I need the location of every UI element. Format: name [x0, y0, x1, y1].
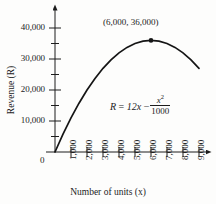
equation-label: R = 12x −x21000 — [110, 94, 171, 117]
equation-numerator-exponent: 2 — [161, 93, 164, 100]
equation-numerator: x2 — [150, 94, 170, 105]
xtick-label-5000: 5,000 — [132, 140, 142, 160]
xtick-label-1000: 1,000 — [68, 140, 78, 160]
xtick-label-7000: 7,000 — [164, 140, 174, 160]
xtick-label-4000: 4,000 — [116, 140, 126, 160]
equation-equals: = — [119, 101, 125, 112]
x-axis-title: Number of units (x) — [0, 187, 216, 197]
origin-label: 0 — [40, 155, 45, 165]
xtick-label-3000: 3,000 — [100, 140, 110, 160]
equation-fraction: x21000 — [150, 94, 170, 117]
equation-term1: 12x — [127, 101, 141, 112]
equation-lhs: R — [110, 101, 116, 112]
vertex-annotation-label: (6,000, 36,000) — [103, 17, 159, 27]
xtick-label-9000: 9,000 — [196, 140, 206, 160]
equation-minus: − — [144, 101, 150, 112]
xtick-label-2000: 2,000 — [84, 140, 94, 160]
y-axis-title: Revenue (R) — [6, 51, 16, 129]
vertex-marker — [149, 38, 154, 43]
ytick-label-40000: 40,000 — [0, 22, 45, 32]
equation-denominator: 1000 — [150, 106, 170, 116]
xtick-label-6000: 6,000 — [148, 140, 158, 160]
xtick-label-8000: 8,000 — [180, 140, 190, 160]
revenue-parabola-figure: 40,000 30,000 20,000 10,000 0 1,000 2,00… — [0, 0, 216, 204]
